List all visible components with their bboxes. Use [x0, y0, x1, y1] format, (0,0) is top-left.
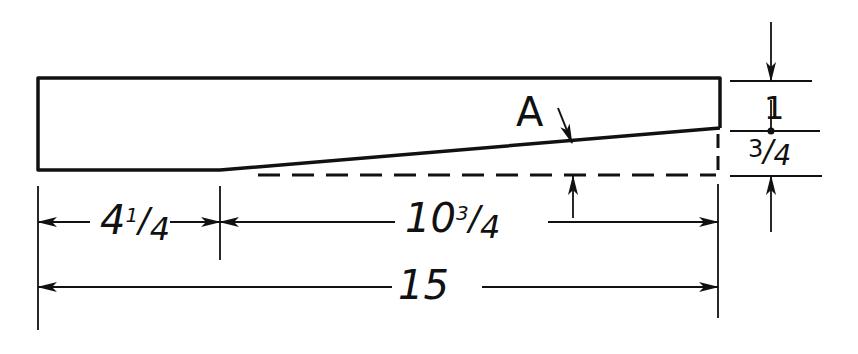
left-length-denominator: 4: [150, 210, 170, 248]
part-outline: [38, 78, 720, 170]
fraction-slash: /: [469, 198, 480, 238]
left-length-label: 41/4: [100, 200, 170, 240]
taper-depth-numerator: 3: [748, 135, 763, 163]
overall-length-label: 15: [398, 265, 449, 305]
dimension-line-end-height: [768, 22, 775, 232]
taper-depth-label: 3/4: [748, 136, 791, 166]
taper-depth-denominator: 4: [773, 139, 791, 172]
taper-length-whole: 10: [405, 195, 456, 241]
left-length-whole: 4: [100, 197, 125, 243]
fraction-slash: /: [138, 200, 149, 240]
taper-length-label: 103/4: [405, 198, 500, 238]
left-length-numerator: 1: [125, 203, 138, 227]
taper-length-denominator: 4: [480, 208, 500, 246]
feature-label-a: A: [516, 92, 543, 132]
feature-a-leader: [558, 108, 572, 143]
taper-length-numerator: 3: [456, 201, 469, 225]
hidden-lines: [258, 134, 718, 175]
fraction-slash: /: [763, 133, 773, 168]
end-height-label: 1: [764, 92, 784, 124]
